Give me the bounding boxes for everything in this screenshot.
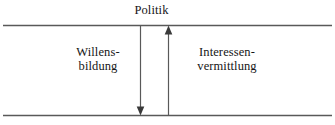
label-willensbildung-line1: Willens-: [76, 45, 119, 59]
diagram-canvas: [0, 0, 335, 125]
interessenvermittlung-arrowhead-up: [165, 26, 173, 35]
willensbildung-arrow: [137, 26, 145, 116]
label-interessenvermittlung: Interessen- vermittlung: [172, 45, 282, 73]
diagram-title: Politik: [0, 3, 319, 17]
label-willensbildung: Willens- bildung: [60, 45, 136, 73]
label-interessenvermittlung-line1: Interessen-: [199, 45, 255, 59]
willensbildung-arrowhead-down: [137, 107, 145, 116]
label-willensbildung-line2: bildung: [60, 59, 136, 73]
politik-diagram: Politik Willens- bildung Interessen- ver…: [0, 0, 335, 125]
label-interessenvermittlung-line2: vermittlung: [172, 59, 282, 73]
